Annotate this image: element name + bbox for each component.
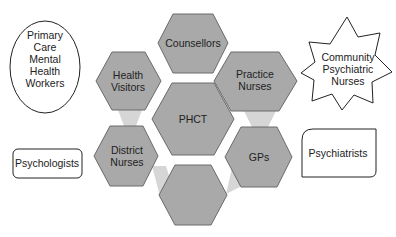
pcmhw-line1: Primary bbox=[27, 29, 64, 41]
box-psychiatrists: Psychiatrists bbox=[302, 129, 376, 177]
phct-label: PHCT bbox=[179, 113, 208, 125]
health-visitors-label-line2: Visitors bbox=[111, 81, 145, 93]
hexagon-district-nurses: District Nurses bbox=[94, 126, 158, 186]
district-nurses-label-line1: District bbox=[111, 144, 143, 156]
primary-care-team-diagram: Counsellors Health Visitors Practice Nur… bbox=[0, 0, 396, 237]
box-psychologists: Psychologists bbox=[13, 149, 82, 178]
counsellors-label: Counsellors bbox=[165, 37, 220, 49]
connector-pn-gp bbox=[244, 111, 276, 127]
pcmhw-line5: Workers bbox=[26, 77, 65, 89]
psychologists-label: Psychologists bbox=[15, 157, 79, 169]
psychiatrists-label: Psychiatrists bbox=[309, 147, 368, 159]
cpn-line3: Nurses bbox=[331, 75, 364, 87]
practice-nurses-label-line1: Practice bbox=[236, 68, 274, 80]
pcmhw-line4: Health bbox=[30, 65, 61, 77]
star-community-psychiatric-nurses: Community Psychiatric Nurses bbox=[301, 17, 392, 110]
cpn-line1: Community bbox=[321, 51, 375, 63]
cpn-line2: Psychiatric bbox=[323, 63, 374, 75]
pcmhw-line2: Care bbox=[34, 41, 57, 53]
health-visitors-label-line1: Health bbox=[113, 69, 144, 81]
district-nurses-label-line2: Nurses bbox=[110, 156, 143, 168]
hexagon-counsellors: Counsellors bbox=[158, 14, 228, 73]
gps-label: GPs bbox=[249, 151, 269, 163]
practice-nurses-label-line2: Nurses bbox=[238, 80, 271, 92]
hexagon-practice-nurses: Practice Nurses bbox=[214, 52, 297, 111]
hexagon-health-visitors: Health Visitors bbox=[96, 52, 161, 110]
connector-hv-dn bbox=[118, 110, 142, 126]
ellipse-primary-care-mental-health-workers: Primary Care Mental Health Workers bbox=[10, 21, 80, 113]
pcmhw-line3: Mental bbox=[29, 53, 61, 65]
hexagon-blank bbox=[159, 165, 227, 225]
